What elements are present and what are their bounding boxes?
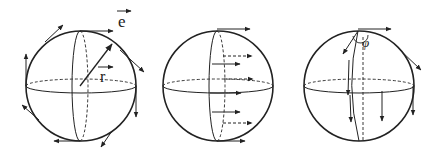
e-vector-label: e bbox=[118, 12, 126, 31]
sphere-outline bbox=[304, 31, 414, 141]
sphere-diagram: e r φ bbox=[0, 0, 441, 156]
sphere-1 bbox=[22, 11, 144, 147]
equator-back bbox=[163, 79, 273, 86]
equator-front bbox=[26, 86, 136, 93]
r-vector-label: r bbox=[100, 68, 106, 85]
sphere-outline bbox=[163, 31, 273, 141]
phi-angle-label: φ bbox=[362, 35, 369, 50]
tangent-vector bbox=[101, 131, 112, 147]
downward-vector bbox=[350, 95, 351, 122]
meridian-front bbox=[72, 31, 80, 141]
meridian-back bbox=[80, 31, 88, 141]
downward-vector bbox=[348, 60, 349, 95]
meridian-front bbox=[209, 31, 217, 141]
meridian-front bbox=[352, 31, 359, 141]
meridian-back bbox=[217, 31, 225, 141]
sphere-2 bbox=[163, 29, 273, 141]
tangent-vector bbox=[120, 50, 144, 72]
equator-back bbox=[304, 79, 414, 86]
tangent-vector bbox=[45, 25, 63, 42]
equator-front bbox=[304, 86, 414, 93]
equator-front bbox=[163, 86, 273, 93]
sphere-outline bbox=[26, 31, 136, 141]
